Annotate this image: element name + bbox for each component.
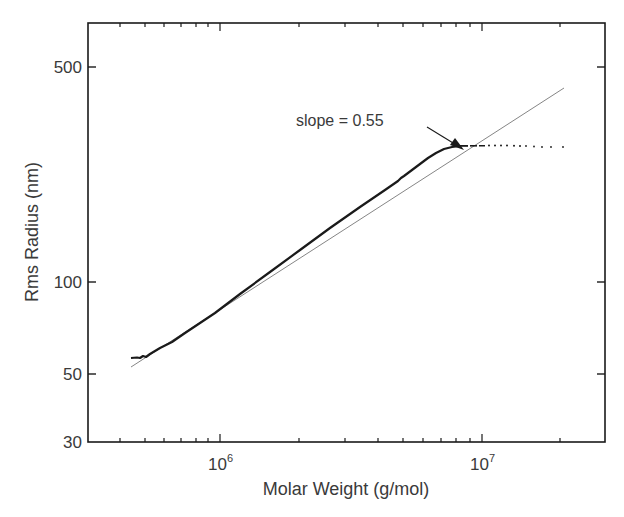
annotation-arrow [427,127,464,150]
plot-frame [88,23,605,442]
slope-annotation: slope = 0.55 [296,112,384,129]
y-axis-title: Rms Radius (nm) [22,162,42,302]
chart-svg: 500 100 50 30 106 107 Molar Weight (g/mo… [0,0,624,517]
x-axis-title: Molar Weight (g/mol) [263,479,430,499]
x-tick-base-1e6: 10 [208,455,227,474]
x-tick-label-1e7: 107 [470,452,495,474]
y-tick-label-500: 500 [54,58,82,77]
y-tick-label-50: 50 [63,365,82,384]
x-ticks-top [120,23,560,31]
x-tick-base-1e7: 10 [470,455,489,474]
data-curve [131,146,460,358]
data-points-plateau [460,145,564,148]
x-tick-label-1e6: 106 [208,452,233,474]
x-ticks-bottom [120,434,560,442]
x-tick-exp-1e6: 6 [227,452,233,464]
y-tick-label-100: 100 [54,273,82,292]
x-tick-exp-1e7: 7 [489,452,495,464]
y-tick-label-30: 30 [63,433,82,452]
